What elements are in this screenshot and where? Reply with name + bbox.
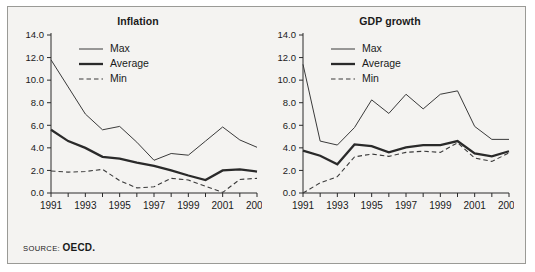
y-axis-tick-label: 6.0 <box>283 120 296 131</box>
x-axis-tick-label: 1991 <box>40 200 63 211</box>
y-axis-tick-label: 8.0 <box>283 97 296 108</box>
y-axis-tick-label: 4.0 <box>31 142 44 153</box>
x-axis-tick-label: 1991 <box>292 200 315 211</box>
legend-label-average: Average <box>110 57 149 69</box>
source-note: SOURCE: OECD. <box>23 242 95 253</box>
series-line-min <box>303 143 509 193</box>
x-axis-tick-label: 1995 <box>361 200 384 211</box>
legend-label-min: Min <box>110 72 127 84</box>
y-axis-tick-label: 0.0 <box>31 187 44 198</box>
line-chart-gdp-growth: 0.02.04.06.08.010.012.014.01991199319951… <box>266 29 514 225</box>
x-axis-tick-label: 2001 <box>212 200 235 211</box>
chart-title-gdp-growth: GDP growth <box>266 15 514 27</box>
x-axis-tick-label: 1993 <box>326 200 349 211</box>
x-axis-tick-label: 1997 <box>143 200 166 211</box>
x-axis-tick-label: 1995 <box>109 200 132 211</box>
source-label: SOURCE: <box>23 244 60 253</box>
legend-label-average: Average <box>362 57 401 69</box>
y-axis-tick-label: 4.0 <box>283 142 296 153</box>
x-axis-tick-label: 2003 <box>498 200 514 211</box>
y-axis-tick-label: 8.0 <box>31 97 44 108</box>
chart-panel-gdp-growth: GDP growth 0.02.04.06.08.010.012.014.019… <box>266 15 514 225</box>
x-axis-tick-label: 1997 <box>395 200 418 211</box>
series-line-average <box>51 130 257 180</box>
source-value: OECD. <box>63 242 96 253</box>
y-axis-tick-label: 14.0 <box>278 29 297 40</box>
x-axis-tick-label: 2001 <box>464 200 487 211</box>
x-axis-tick-label: 1999 <box>429 200 452 211</box>
x-axis-tick-label: 1999 <box>177 200 200 211</box>
chart-title-inflation: Inflation <box>14 15 262 27</box>
chart-panel-inflation: Inflation 0.02.04.06.08.010.012.014.0199… <box>14 15 262 225</box>
figure-panel: Inflation 0.02.04.06.08.010.012.014.0199… <box>7 6 526 264</box>
y-axis-tick-label: 10.0 <box>26 74 45 85</box>
y-axis-tick-label: 10.0 <box>278 74 297 85</box>
y-axis-tick-label: 6.0 <box>31 120 44 131</box>
series-line-max <box>303 64 509 145</box>
y-axis-tick-label: 2.0 <box>31 165 44 176</box>
series-line-max <box>51 60 257 160</box>
legend-label-max: Max <box>362 42 383 54</box>
x-axis-tick-label: 1993 <box>74 200 97 211</box>
y-axis-tick-label: 12.0 <box>26 52 45 63</box>
legend-label-max: Max <box>110 42 131 54</box>
y-axis-tick-label: 12.0 <box>278 52 297 63</box>
y-axis-tick-label: 2.0 <box>283 165 296 176</box>
x-axis-tick-label: 2003 <box>246 200 262 211</box>
legend-label-min: Min <box>362 72 379 84</box>
line-chart-inflation: 0.02.04.06.08.010.012.014.01991199319951… <box>14 29 262 225</box>
series-line-min <box>51 169 257 192</box>
y-axis-tick-label: 14.0 <box>26 29 45 40</box>
y-axis-tick-label: 0.0 <box>283 187 296 198</box>
